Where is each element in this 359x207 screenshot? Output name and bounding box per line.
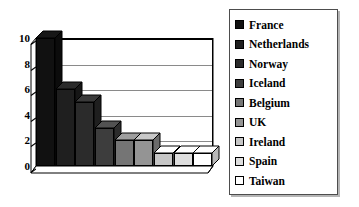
legend-item-iceland: Iceland	[234, 74, 335, 94]
legend-label: Netherlands	[249, 38, 309, 50]
legend-item-france: France	[234, 15, 335, 35]
bar-front-face	[115, 140, 134, 166]
legend-label: Iceland	[249, 77, 285, 89]
bar-front-face	[95, 128, 114, 166]
bar-iceland	[95, 128, 114, 166]
legend-label: Ireland	[249, 136, 285, 148]
legend-swatch-icon	[235, 98, 244, 107]
legend-item-taiwan: Taiwan	[234, 171, 335, 191]
chart-floor	[31, 166, 213, 173]
legend-swatch-icon	[235, 118, 244, 127]
bar-ireland	[154, 153, 173, 166]
chart-plot-region: 0246810	[0, 0, 226, 207]
legend-label: Belgium	[249, 97, 290, 109]
legend-label: Spain	[249, 155, 277, 167]
legend-swatch-icon	[235, 20, 244, 29]
bar-top-face	[174, 146, 193, 153]
bar-top-face	[36, 31, 55, 38]
legend-item-norway: Norway	[234, 54, 335, 74]
legend-swatch-icon	[235, 59, 244, 68]
bar-top-face	[115, 133, 134, 140]
legend-item-uk: UK	[234, 113, 335, 133]
legend-label: Norway	[249, 58, 288, 70]
bar-taiwan	[193, 153, 212, 166]
bar-front-face	[193, 153, 212, 166]
bar-top-face	[154, 146, 173, 153]
chart-legend: FranceNetherlandsNorwayIcelandBelgiumUKI…	[229, 9, 338, 195]
bar-front-face	[154, 153, 173, 166]
bar-front-face	[75, 102, 94, 166]
bar-netherlands	[56, 89, 75, 166]
legend-item-list: FranceNetherlandsNorwayIcelandBelgiumUKI…	[234, 15, 335, 192]
bar-top-face	[193, 146, 212, 153]
bar-norway	[75, 102, 94, 166]
legend-swatch-icon	[235, 137, 244, 146]
bar-front-face	[174, 153, 193, 166]
bar-uk	[134, 140, 153, 166]
bar-chart-figure: 0246810 FranceNetherlandsNorwayIcelandBe…	[0, 0, 359, 207]
bar-front-face	[134, 140, 153, 166]
legend-swatch-icon	[235, 176, 244, 185]
legend-item-ireland: Ireland	[234, 132, 335, 152]
bar-france	[36, 38, 55, 166]
legend-swatch-icon	[235, 40, 244, 49]
bar-top-face	[95, 121, 114, 128]
legend-item-belgium: Belgium	[234, 93, 335, 113]
bar-spain	[174, 153, 193, 166]
legend-label: UK	[249, 116, 266, 128]
bar-top-face	[75, 95, 94, 102]
bar-top-face	[134, 133, 153, 140]
bar-top-face	[56, 82, 75, 89]
legend-swatch-icon	[235, 79, 244, 88]
legend-item-spain: Spain	[234, 152, 335, 172]
legend-item-netherlands: Netherlands	[234, 35, 335, 55]
bar-belgium	[115, 140, 134, 166]
legend-swatch-icon	[235, 157, 244, 166]
bar-series	[36, 38, 213, 166]
legend-label: Taiwan	[249, 175, 285, 187]
bar-front-face	[36, 38, 55, 166]
bar-front-face	[56, 89, 75, 166]
legend-label: France	[249, 19, 283, 31]
